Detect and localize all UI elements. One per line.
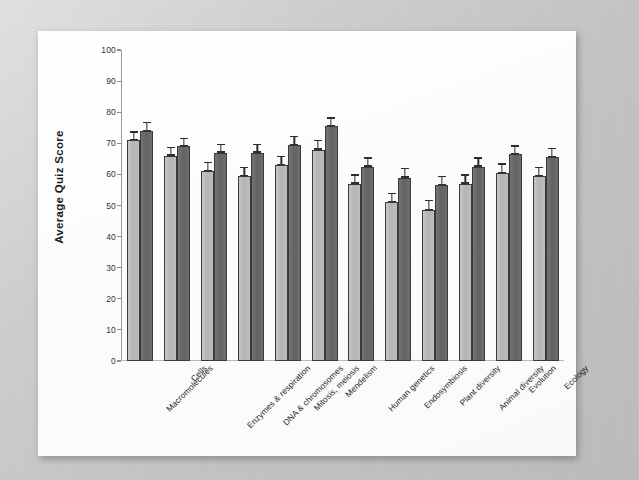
error-bar-cap-bottom	[461, 182, 469, 183]
bar-group	[533, 50, 559, 361]
bar-wrapper	[275, 50, 288, 361]
bar-light[interactable]	[127, 140, 140, 361]
bar-wrapper	[177, 50, 190, 361]
error-bar-cap-top	[511, 145, 519, 146]
bar-wrapper	[127, 50, 140, 361]
bar-dark[interactable]	[472, 167, 485, 361]
bar-dark[interactable]	[140, 131, 153, 361]
error-bar-cap-top	[217, 144, 225, 145]
bar-wrapper	[546, 50, 559, 361]
error-bar-cap-top	[351, 174, 359, 175]
bar-groups	[122, 50, 564, 361]
error-bar-cap-bottom	[180, 145, 188, 146]
bar-light[interactable]	[385, 202, 398, 361]
error-bar-cap-top	[438, 176, 446, 177]
y-tick-mark	[117, 174, 121, 175]
error-bar-cap-top	[401, 168, 409, 169]
bar-group	[275, 50, 301, 361]
plot-area: 1009080706050403020100	[121, 50, 564, 361]
bar-wrapper	[533, 50, 546, 361]
error-bar-cap-bottom	[401, 176, 409, 177]
y-tick-mark	[117, 360, 121, 361]
bar-wrapper	[214, 50, 227, 361]
bar-dark[interactable]	[435, 185, 448, 361]
error-bar-cap-top	[180, 138, 188, 139]
y-axis-title: Average Quiz Score	[50, 31, 68, 342]
bar-light[interactable]	[164, 156, 177, 361]
bar-dark[interactable]	[288, 145, 301, 361]
error-bar-cap-top	[327, 117, 335, 118]
bar-light[interactable]	[496, 173, 509, 361]
error-bar-cap-bottom	[277, 164, 285, 165]
error-bar-cap-bottom	[438, 184, 446, 185]
bar-wrapper	[348, 50, 361, 361]
error-bar-cap-top	[388, 193, 396, 194]
bar-light[interactable]	[312, 150, 325, 361]
bar-wrapper	[164, 50, 177, 361]
bar-group	[459, 50, 485, 361]
bar-light[interactable]	[238, 176, 251, 361]
bar-dark[interactable]	[214, 153, 227, 361]
error-bar-cap-bottom	[498, 172, 506, 173]
y-axis-title-text: Average Quiz Score	[53, 130, 65, 244]
error-bar-cap-bottom	[130, 139, 138, 140]
error-bar-cap-bottom	[167, 154, 175, 155]
error-bar-cap-top	[425, 200, 433, 201]
bar-light[interactable]	[533, 176, 546, 361]
error-bar-cap-top	[314, 140, 322, 141]
error-bar-cap-top	[461, 174, 469, 175]
y-tick-mark	[117, 143, 121, 144]
bar-group	[385, 50, 411, 361]
bar-group	[164, 50, 190, 361]
bar-dark[interactable]	[251, 153, 264, 361]
error-bar-cap-bottom	[240, 175, 248, 176]
bar-dark[interactable]	[177, 146, 190, 361]
bar-wrapper	[472, 50, 485, 361]
bar-group	[422, 50, 448, 361]
error-bar-cap-bottom	[535, 175, 543, 176]
error-bar-cap-bottom	[314, 148, 322, 149]
error-bar-cap-top	[143, 122, 151, 123]
y-tick-mark	[117, 267, 121, 268]
bar-light[interactable]	[422, 210, 435, 361]
x-axis-labels: MacromoleculesCellsEnzymes & respiration…	[122, 363, 565, 455]
error-bar-cap-bottom	[511, 153, 519, 154]
bar-wrapper	[435, 50, 448, 361]
x-axis-label: Enzymes & respiration	[245, 363, 312, 430]
bar-light[interactable]	[348, 184, 361, 361]
bar-light[interactable]	[275, 165, 288, 361]
bar-wrapper	[238, 50, 251, 361]
bar-wrapper	[201, 50, 214, 361]
bar-dark[interactable]	[325, 126, 338, 361]
bar-group	[201, 50, 227, 361]
error-bar-cap-bottom	[143, 130, 151, 131]
bar-wrapper	[496, 50, 509, 361]
bar-group	[496, 50, 522, 361]
error-bar-cap-bottom	[217, 151, 225, 152]
bar-dark[interactable]	[546, 157, 559, 361]
y-tick-mark	[117, 81, 121, 82]
y-tick-mark	[117, 49, 121, 50]
error-bar-cap-top	[364, 157, 372, 158]
bar-wrapper	[325, 50, 338, 361]
bar-wrapper	[361, 50, 374, 361]
error-bar-cap-bottom	[351, 182, 359, 183]
error-bar-cap-top	[130, 131, 138, 132]
error-bar-cap-top	[548, 148, 556, 149]
error-bar-cap-top	[204, 162, 212, 163]
bar-dark[interactable]	[361, 167, 374, 361]
bar-wrapper	[385, 50, 398, 361]
y-tick-mark	[117, 298, 121, 299]
bar-group	[238, 50, 264, 361]
bar-group	[348, 50, 374, 361]
error-bar-cap-top	[240, 167, 248, 168]
error-bar-cap-bottom	[290, 144, 298, 145]
bar-wrapper	[251, 50, 264, 361]
bar-dark[interactable]	[398, 178, 411, 361]
error-bar-cap-top	[290, 136, 298, 137]
bar-dark[interactable]	[509, 154, 522, 361]
error-bar-cap-bottom	[388, 201, 396, 202]
bar-light[interactable]	[201, 171, 214, 361]
error-bar-cap-bottom	[474, 165, 482, 166]
bar-light[interactable]	[459, 184, 472, 361]
